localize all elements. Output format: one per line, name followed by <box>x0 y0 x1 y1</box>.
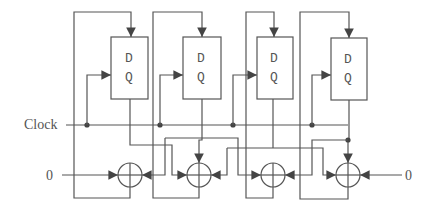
flip-flop-3: D Q <box>257 37 293 99</box>
clock-label: Clock <box>24 117 57 132</box>
flip-flop-2: D Q <box>183 37 221 99</box>
right-zero-input-label: 0 <box>405 168 412 183</box>
ff1-d-label: D <box>125 51 133 66</box>
interstage-wiring <box>130 99 351 175</box>
ff2-q-label: Q <box>197 70 205 85</box>
left-zero-input-label: 0 <box>46 168 53 183</box>
ff4-d-label: D <box>344 52 352 67</box>
flip-flop-4: D Q <box>331 38 367 100</box>
xor-gate-4 <box>336 163 360 187</box>
ff1-q-label: Q <box>125 70 133 85</box>
xor-gate-1 <box>118 163 142 187</box>
flip-flop-1: D Q <box>111 37 148 99</box>
ff3-q-label: Q <box>270 70 278 85</box>
ff3-d-label: D <box>270 51 278 66</box>
xor-gate-3 <box>261 163 285 187</box>
shift-register-circuit-diagram: Clock 0 0 D Q D Q D Q D Q <box>0 0 437 217</box>
ff4-q-label: Q <box>344 71 352 86</box>
ff2-d-label: D <box>197 51 205 66</box>
xor-gate-2 <box>187 163 211 187</box>
